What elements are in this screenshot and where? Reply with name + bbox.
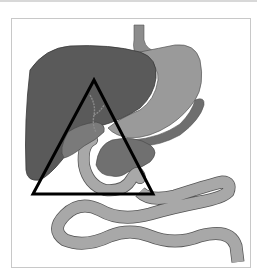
anatomy-illustration	[0, 0, 257, 280]
